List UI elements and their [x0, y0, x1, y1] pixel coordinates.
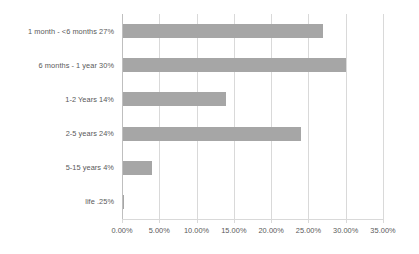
category-axis-label: life .25% [85, 197, 114, 206]
category-axis-label: 1 month - <6 months 27% [28, 27, 114, 36]
bar-row [122, 117, 383, 151]
bar-row [122, 151, 383, 185]
value-axis-label: 20.00% [258, 226, 283, 235]
category-axis-label: 5-15 years 4% [66, 163, 114, 172]
category-axis-label: 6 months - 1 year 30% [39, 61, 114, 70]
value-axis-label: 10.00% [184, 226, 209, 235]
bar[interactable] [122, 24, 323, 38]
plot-area [122, 14, 383, 219]
axis-tick [383, 219, 384, 223]
axis-tick [197, 219, 198, 223]
category-label-row: 6 months - 1 year 30% [0, 48, 118, 82]
value-axis-line [122, 14, 123, 219]
bar-chart: 1 month - <6 months 27% 6 months - 1 yea… [0, 0, 419, 254]
bar-row [122, 82, 383, 116]
bar[interactable] [122, 161, 152, 175]
bar-row [122, 185, 383, 219]
category-axis: 1 month - <6 months 27% 6 months - 1 yea… [0, 14, 118, 219]
axis-tick [234, 219, 235, 223]
category-label-row: 1-2 Years 14% [0, 82, 118, 116]
axis-tick [271, 219, 272, 223]
bar[interactable] [122, 92, 226, 106]
category-label-row: 1 month - <6 months 27% [0, 14, 118, 48]
bars-layer [122, 14, 383, 219]
axis-tick [122, 219, 123, 223]
value-axis-label: 0.00% [111, 226, 132, 235]
category-label-row: life .25% [0, 185, 118, 219]
category-label-row: 5-15 years 4% [0, 151, 118, 185]
axis-tick [308, 219, 309, 223]
value-axis-label: 5.00% [149, 226, 170, 235]
value-axis-label: 35.00% [370, 226, 395, 235]
value-axis-label: 30.00% [333, 226, 358, 235]
axis-tick [346, 219, 347, 223]
category-axis-label: 2-5 years 24% [66, 129, 114, 138]
axis-tick [159, 219, 160, 223]
value-axis-label: 15.00% [221, 226, 246, 235]
gridline [383, 14, 384, 219]
category-label-row: 2-5 years 24% [0, 117, 118, 151]
category-axis-label: 1-2 Years 14% [65, 95, 114, 104]
bar-row [122, 48, 383, 82]
bar[interactable] [122, 58, 346, 72]
value-axis-label: 25.00% [296, 226, 321, 235]
bar[interactable] [122, 127, 301, 141]
bar-row [122, 14, 383, 48]
tick-marks [122, 219, 384, 223]
value-axis-labels: 0.00%5.00%10.00%15.00%20.00%25.00%30.00%… [0, 226, 419, 240]
